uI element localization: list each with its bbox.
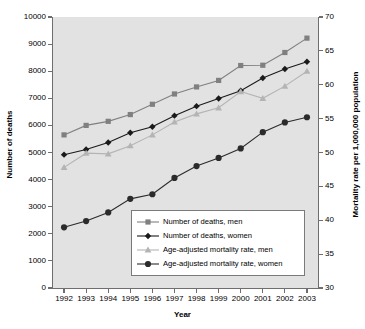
y-tick-left <box>48 98 52 99</box>
x-tick <box>63 289 64 293</box>
legend-item[interactable]: Number of deaths, men <box>136 215 300 229</box>
x-tick <box>284 289 285 293</box>
chart-legend: Number of deaths, menNumber of deaths, w… <box>131 210 305 276</box>
series-line-1 <box>64 62 307 155</box>
x-tick <box>240 289 241 293</box>
y-tick-label-right: 70 <box>325 12 361 21</box>
y-tick-label-left: 6000 <box>10 120 46 129</box>
legend-item[interactable]: Age-adjusted mortality rate, men <box>136 243 300 257</box>
x-tick-label: 2003 <box>292 294 322 303</box>
y-tick-left <box>48 287 52 288</box>
legend-marker-icon <box>136 216 160 228</box>
y-tick-right <box>319 220 323 221</box>
x-tick <box>108 289 109 293</box>
y-tick-right <box>319 84 323 85</box>
y-tick-label-left: 9000 <box>10 39 46 48</box>
y-tick-label-left: 2000 <box>10 229 46 238</box>
y-tick-right <box>319 254 323 255</box>
x-tick <box>306 289 307 293</box>
y-tick-label-left: 3000 <box>10 202 46 211</box>
y-tick-left <box>48 152 52 153</box>
y-tick-label-right: 50 <box>325 148 361 157</box>
legend-item-label: Number of deaths, women <box>163 230 252 242</box>
legend-item[interactable]: Age-adjusted mortality rate, women <box>136 257 300 271</box>
legend-item-label: Number of deaths, men <box>163 216 242 228</box>
y-tick-label-left: 0 <box>10 283 46 292</box>
y-tick-label-right: 60 <box>325 80 361 89</box>
y-tick-label-right: 30 <box>325 283 361 292</box>
y-tick-label-right: 65 <box>325 46 361 55</box>
legend-item-label: Age-adjusted mortality rate, women <box>163 258 282 270</box>
y-tick-left <box>48 44 52 45</box>
legend-item-label: Age-adjusted mortality rate, men <box>163 244 273 256</box>
y-tick-left <box>48 206 52 207</box>
y-tick-label-left: 5000 <box>10 148 46 157</box>
x-tick <box>262 289 263 293</box>
y-tick-label-right: 45 <box>325 181 361 190</box>
axis-spine-left <box>52 17 53 289</box>
y-tick-label-right: 40 <box>325 215 361 224</box>
series-line-2 <box>64 71 307 167</box>
y-tick-left <box>48 233 52 234</box>
y-tick-right <box>319 152 323 153</box>
series-line-0 <box>64 38 307 135</box>
axis-spine-bottom <box>52 288 319 289</box>
y-tick-right <box>319 50 323 51</box>
y-tick-label-left: 4000 <box>10 175 46 184</box>
y-axis-right-title-text: Mortality rate per 1,000,000 population <box>351 71 360 217</box>
x-axis-title: Year <box>0 310 365 319</box>
y-tick-left <box>48 179 52 180</box>
y-tick-left <box>48 71 52 72</box>
y-tick-label-left: 1000 <box>10 256 46 265</box>
legend-marker-icon <box>136 244 160 256</box>
x-tick <box>218 289 219 293</box>
x-tick <box>152 289 153 293</box>
x-tick <box>86 289 87 293</box>
y-tick-label-left: 10000 <box>10 12 46 21</box>
x-tick <box>130 289 131 293</box>
legend-marker-icon <box>136 230 160 242</box>
y-axis-right-title: Mortality rate per 1,000,000 population <box>348 0 363 288</box>
legend-item[interactable]: Number of deaths, women <box>136 229 300 243</box>
y-tick-left <box>48 16 52 17</box>
x-tick <box>196 289 197 293</box>
y-tick-left <box>48 125 52 126</box>
y-tick-right <box>319 118 323 119</box>
legend-marker-icon <box>136 258 160 270</box>
y-tick-left <box>48 260 52 261</box>
y-tick-right <box>319 186 323 187</box>
x-tick <box>174 289 175 293</box>
y-tick-right <box>319 16 323 17</box>
y-tick-right <box>319 287 323 288</box>
y-tick-label-right: 55 <box>325 114 361 123</box>
chart-figure: Number of deaths Mortality rate per 1,00… <box>0 0 365 329</box>
y-tick-label-right: 35 <box>325 249 361 258</box>
y-tick-label-left: 7000 <box>10 93 46 102</box>
y-tick-label-left: 8000 <box>10 66 46 75</box>
